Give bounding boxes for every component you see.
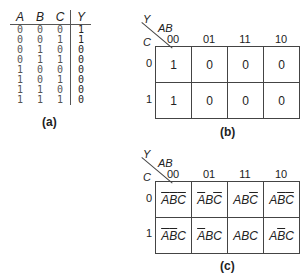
kmap-b-col-00: 00 xyxy=(155,33,191,45)
header-b: B xyxy=(30,10,50,25)
minterm-expression: ABC xyxy=(161,229,186,243)
kmap-cell: ABC xyxy=(156,218,192,254)
caption-c: (c) xyxy=(220,259,235,273)
kmap-b-row-0: 0 xyxy=(146,57,152,69)
kmap-c-col-11: 11 xyxy=(227,168,263,180)
truth-table-cell: 1 xyxy=(30,95,50,105)
minterm-expression: ABC xyxy=(233,229,258,243)
kmap-b-row-var: C xyxy=(143,36,151,48)
minterm-expression: ABC xyxy=(233,193,258,207)
kmap-cell: 1 xyxy=(156,47,192,83)
header-c: C xyxy=(50,10,71,25)
kmap-cell: ABC xyxy=(264,182,300,218)
kmap-cell: 0 xyxy=(228,47,264,83)
minterm-expression: ABC xyxy=(269,193,294,207)
truth-table-cell: 1 xyxy=(10,95,30,105)
header-y: Y xyxy=(71,10,92,25)
kmap-cell: 0 xyxy=(192,47,228,83)
minterm-expression: ABC xyxy=(161,193,186,207)
kmap-c-col-01: 01 xyxy=(191,168,227,180)
kmap-c-col-10: 10 xyxy=(263,168,299,180)
kmap-cell: ABC xyxy=(192,182,228,218)
kmap-cell: ABC xyxy=(228,218,264,254)
kmap-c-row-var: C xyxy=(143,171,151,183)
kmap-cell: 0 xyxy=(228,83,264,119)
kmap-cell: ABC xyxy=(228,182,264,218)
kmap-c-row-1: 1 xyxy=(146,227,152,239)
kmap-cell: ABC xyxy=(192,218,228,254)
kmap-b-row-1: 1 xyxy=(146,93,152,105)
kmap-b-col-11: 11 xyxy=(227,33,263,45)
kmap-c-row-0: 0 xyxy=(146,192,152,204)
header-a: A xyxy=(10,10,30,25)
truth-table-cell: 0 xyxy=(71,95,92,105)
kmap-c-col-00: 00 xyxy=(155,168,191,180)
truth-table-cell: 1 xyxy=(50,95,71,105)
kmap-c-grid: ABCABCABCABCABCABCABCABC xyxy=(155,181,300,254)
kmap-cell: 0 xyxy=(192,83,228,119)
kmap-cell: ABC xyxy=(264,218,300,254)
kmap-b-col-01: 01 xyxy=(191,33,227,45)
kmap-cell: ABC xyxy=(156,182,192,218)
truth-table-row: 1110 xyxy=(10,95,91,105)
minterm-expression: ABC xyxy=(197,193,222,207)
kmap-b-col-10: 10 xyxy=(263,33,299,45)
kmap-cell: 0 xyxy=(264,83,300,119)
minterm-expression: ABC xyxy=(197,229,222,243)
kmap-cell: 0 xyxy=(264,47,300,83)
caption-b: (b) xyxy=(220,125,235,139)
kmap-b-grid: 10001000 xyxy=(155,46,300,119)
truth-table: A B C Y 00010011010001101000101011001110 xyxy=(10,10,91,105)
kmap-cell: 1 xyxy=(156,83,192,119)
minterm-expression: ABC xyxy=(269,229,294,243)
caption-a: (a) xyxy=(42,115,57,129)
